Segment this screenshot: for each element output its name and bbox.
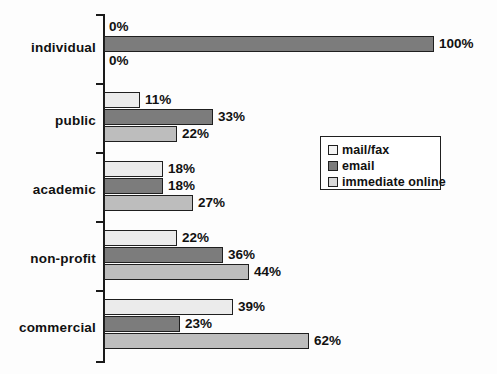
- bar-commercial-online[interactable]: [104, 333, 309, 349]
- bar-value-academic-mailfax: 18%: [163, 161, 195, 177]
- axis-tick-2: [96, 152, 104, 154]
- axis-tick-top: [96, 14, 104, 16]
- bar-value-individual-online: 0%: [104, 53, 129, 69]
- bar-chart: individual 0% 100% 0% public 11% 33% 22%: [0, 0, 497, 374]
- legend-item-immediate-online[interactable]: immediate online: [328, 174, 440, 189]
- bar-value-nonprofit-mailfax: 22%: [177, 230, 209, 246]
- bar-value-commercial-online: 62%: [309, 333, 341, 349]
- legend-swatch-icon-mailfax: [328, 145, 338, 155]
- category-label-individual: individual: [0, 40, 96, 55]
- legend-label-email: email: [342, 159, 374, 173]
- bar-value-commercial-email: 23%: [180, 316, 212, 332]
- legend-swatch-icon-email: [328, 161, 338, 171]
- bar-nonprofit-mailfax[interactable]: [104, 230, 177, 246]
- legend-label-mailfax: mail/fax: [342, 143, 389, 157]
- bar-academic-online[interactable]: [104, 195, 193, 211]
- bar-individual-email[interactable]: [104, 36, 434, 52]
- legend-item-mailfax[interactable]: mail/fax: [328, 142, 440, 157]
- chart-legend: mail/fax email immediate online: [320, 136, 441, 190]
- bar-value-nonprofit-online: 44%: [249, 264, 281, 280]
- bar-value-public-mailfax: 11%: [140, 92, 171, 108]
- legend-swatch-icon-immediate-online: [328, 177, 338, 187]
- axis-tick-1: [96, 83, 104, 85]
- category-label-commercial: commercial: [0, 320, 96, 335]
- category-label-non-profit: non-profit: [0, 251, 96, 266]
- bar-value-public-email: 33%: [213, 109, 245, 125]
- axis-tick-4: [96, 290, 104, 292]
- bar-public-mailfax[interactable]: [104, 92, 140, 108]
- legend-item-email[interactable]: email: [328, 158, 440, 173]
- bar-public-online[interactable]: [104, 126, 177, 142]
- bar-academic-mailfax[interactable]: [104, 161, 163, 177]
- bar-value-public-online: 22%: [177, 126, 209, 142]
- bar-commercial-email[interactable]: [104, 316, 180, 332]
- bar-value-academic-email: 18%: [163, 178, 195, 194]
- bar-value-individual-mailfax: 0%: [104, 19, 129, 35]
- axis-tick-bottom: [96, 361, 104, 363]
- legend-label-immediate-online: immediate online: [342, 175, 446, 189]
- bar-academic-email[interactable]: [104, 178, 163, 194]
- axis-tick-3: [96, 221, 104, 223]
- bar-value-academic-online: 27%: [193, 195, 225, 211]
- category-label-academic: academic: [0, 182, 96, 197]
- bar-value-commercial-mailfax: 39%: [233, 299, 265, 315]
- bar-public-email[interactable]: [104, 109, 213, 125]
- bar-nonprofit-online[interactable]: [104, 264, 249, 280]
- bar-commercial-mailfax[interactable]: [104, 299, 233, 315]
- bar-value-individual-email: 100%: [434, 36, 474, 52]
- category-label-public: public: [0, 113, 96, 128]
- bar-value-nonprofit-email: 36%: [223, 247, 255, 263]
- bar-nonprofit-email[interactable]: [104, 247, 223, 263]
